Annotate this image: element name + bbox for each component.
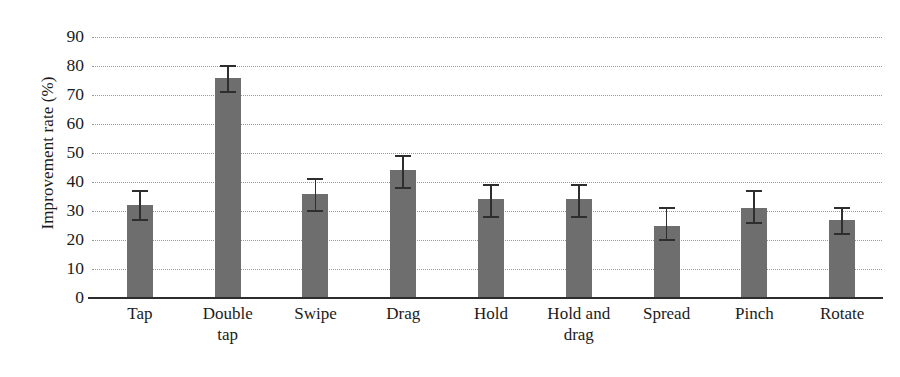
y-axis-tick-label: 90	[44, 28, 84, 46]
error-bar-cap-lower	[746, 222, 762, 224]
error-bar-cap-lower	[307, 210, 323, 212]
x-axis-line	[88, 297, 883, 299]
x-axis-tick-label-line: Rotate	[782, 303, 900, 324]
y-axis-tick-label: 80	[44, 57, 84, 75]
error-bar-cap-upper	[746, 190, 762, 192]
gridline	[92, 124, 882, 125]
gridline	[92, 182, 882, 183]
error-bar-stem	[315, 179, 317, 211]
y-axis-tick-label: 30	[44, 202, 84, 220]
error-bar-cap-lower	[220, 91, 236, 93]
plot-area	[92, 37, 882, 298]
error-bar-cap-upper	[571, 184, 587, 186]
error-bar-cap-upper	[220, 65, 236, 67]
error-bar-cap-lower	[132, 219, 148, 221]
error-bar-cap-lower	[571, 216, 587, 218]
y-axis-tick-labels: 9080706050403020100	[38, 0, 84, 377]
gridline	[92, 66, 882, 67]
x-axis-tick-label: Rotate	[782, 303, 900, 324]
y-axis-tick-label: 40	[44, 173, 84, 191]
error-bar-stem	[841, 208, 843, 234]
x-axis-tick-label-line: drag	[519, 324, 639, 345]
error-bar-cap-upper	[834, 207, 850, 209]
y-axis-tick-label: 60	[44, 115, 84, 133]
error-bar-cap-upper	[395, 155, 411, 157]
error-bar-cap-lower	[395, 187, 411, 189]
y-axis-tick-label: 0	[44, 289, 84, 307]
error-bar-stem	[402, 156, 404, 188]
error-bar-stem	[753, 191, 755, 223]
error-bar-stem	[490, 185, 492, 217]
error-bar-cap-upper	[659, 207, 675, 209]
bar-chart: Improvement rate (%) 9080706050403020100…	[0, 0, 900, 377]
error-bar-stem	[139, 191, 141, 220]
error-bar-stem	[578, 185, 580, 217]
error-bar-cap-upper	[307, 178, 323, 180]
y-axis-tick-label: 50	[44, 144, 84, 162]
error-bar-cap-lower	[483, 216, 499, 218]
gridline	[92, 153, 882, 154]
y-axis-tick-label: 10	[44, 260, 84, 278]
error-bar-stem	[227, 66, 229, 92]
x-axis-tick-label-line: tap	[168, 324, 288, 345]
gridline	[92, 37, 882, 38]
y-axis-tick-label: 70	[44, 86, 84, 104]
error-bar-cap-upper	[132, 190, 148, 192]
bar	[390, 170, 416, 298]
bar	[215, 78, 241, 298]
error-bar-cap-lower	[659, 239, 675, 241]
error-bar-cap-lower	[834, 233, 850, 235]
error-bar-stem	[666, 208, 668, 240]
error-bar-cap-upper	[483, 184, 499, 186]
y-axis-tick-label: 20	[44, 231, 84, 249]
gridline	[92, 95, 882, 96]
